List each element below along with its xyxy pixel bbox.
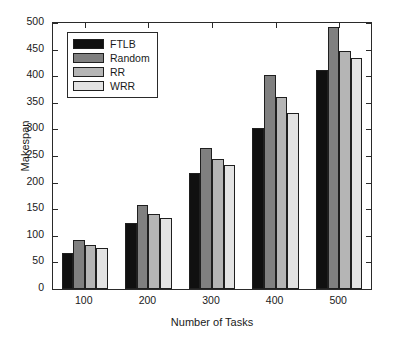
y-tick-mark-right [366,156,371,157]
legend-label: Random [110,53,150,64]
legend-item-random[interactable]: Random [73,51,150,65]
y-tick-mark [53,236,58,237]
x-tick-mark-top [276,23,277,28]
y-tick-mark-right [366,129,371,130]
y-tick-mark [53,183,58,184]
legend-item-rr[interactable]: RR [73,65,150,79]
y-tick-label: 500 [0,15,44,27]
y-tick-label: 400 [0,68,44,80]
y-tick-mark-right [366,76,371,77]
y-tick-mark [53,262,58,263]
y-tick-mark-right [366,209,371,210]
bar-rr-500 [339,51,351,289]
legend-label: RR [110,67,125,78]
y-tick-mark [53,50,58,51]
legend-item-wrr[interactable]: WRR [73,79,150,93]
y-tick-label: 150 [0,201,44,213]
x-tick-label: 100 [75,294,93,306]
legend-swatch-random [73,53,104,63]
legend-swatch-rr [73,67,104,77]
bar-ftlb-100 [62,253,74,289]
bar-wrr-500 [351,58,363,289]
y-tick-mark-right [366,236,371,237]
y-tick-label: 250 [0,148,44,160]
y-tick-mark [53,209,58,210]
y-tick-mark-right [366,50,371,51]
x-tick-label: 200 [139,294,157,306]
bar-random-100 [73,240,85,289]
y-tick-mark-right [366,23,371,24]
y-tick-mark [53,156,58,157]
y-tick-mark [53,76,58,77]
y-tick-mark [53,289,58,290]
y-tick-mark-right [366,262,371,263]
y-tick-mark-right [366,103,371,104]
y-tick-label: 450 [0,42,44,54]
bar-rr-200 [148,214,160,289]
bar-ftlb-300 [189,173,201,289]
y-tick-label: 300 [0,121,44,133]
y-tick-mark [53,129,58,130]
bar-wrr-200 [160,218,172,289]
bar-random-500 [328,27,340,289]
y-tick-mark-right [366,289,371,290]
bar-random-300 [200,148,212,290]
y-tick-label: 50 [0,254,44,266]
x-axis-title: Number of Tasks [52,316,372,328]
bar-rr-300 [212,159,224,289]
plot-area: FTLBRandomRRWRR [52,22,372,290]
y-tick-label: 350 [0,95,44,107]
bar-rr-100 [85,245,97,289]
y-tick-mark-right [366,183,371,184]
x-tick-mark-top [339,23,340,28]
bar-ftlb-200 [125,223,137,290]
plot-inner: FTLBRandomRRWRR [53,23,371,289]
bar-random-200 [137,205,149,289]
bar-wrr-100 [96,248,108,289]
legend-label: FTLB [110,39,136,50]
y-tick-mark [53,103,58,104]
bar-ftlb-400 [252,128,264,289]
legend-swatch-ftlb [73,39,104,49]
bar-rr-400 [276,97,288,289]
x-tick-label: 500 [329,294,347,306]
chart-legend: FTLBRandomRRWRR [67,32,158,98]
bar-chart-figure: Makespan 050100150200250300350400450500 … [0,0,405,339]
x-tick-mark-top [212,23,213,28]
y-tick-label: 0 [0,281,44,293]
bar-random-400 [264,75,276,289]
legend-label: WRR [110,81,135,92]
bar-wrr-300 [224,165,236,289]
y-tick-label: 100 [0,228,44,240]
bar-ftlb-500 [316,70,328,289]
bar-wrr-400 [287,113,299,289]
legend-item-ftlb[interactable]: FTLB [73,37,150,51]
x-tick-label: 400 [266,294,284,306]
x-tick-mark-top [85,23,86,28]
x-tick-mark-top [148,23,149,28]
legend-swatch-wrr [73,81,104,91]
x-tick-label: 300 [202,294,220,306]
y-tick-label: 200 [0,175,44,187]
y-tick-mark [53,23,58,24]
